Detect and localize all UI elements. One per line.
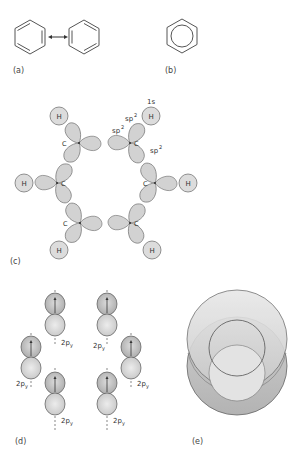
p-orbital: 2py bbox=[16, 333, 41, 390]
svg-text:H: H bbox=[149, 113, 154, 121]
panel-b-aromatic-ring: (b) bbox=[165, 19, 197, 75]
kekule-structure-2 bbox=[69, 20, 99, 54]
hydrogen-atom: H bbox=[143, 241, 161, 259]
svg-text:2: 2 bbox=[159, 144, 162, 150]
p-orbital: 2py bbox=[97, 368, 125, 430]
svg-text:H: H bbox=[57, 247, 62, 255]
annotation-sp2-ring: sp bbox=[150, 147, 159, 155]
p-orbital-label: 2py bbox=[93, 342, 105, 352]
p-orbital-label: 2py bbox=[137, 380, 149, 390]
panel-a-kekule-structures: (a) bbox=[13, 20, 99, 75]
carbon-label: C bbox=[134, 140, 139, 148]
kekule-structure-1 bbox=[15, 20, 45, 54]
svg-text:2: 2 bbox=[121, 124, 124, 130]
carbon-label: C bbox=[61, 180, 66, 188]
panel-label-c: (c) bbox=[10, 257, 21, 266]
panel-e-pi-cloud: (e) bbox=[187, 290, 287, 446]
carbon-label: C bbox=[62, 140, 67, 148]
panel-label-b: (b) bbox=[165, 66, 176, 75]
svg-text:H: H bbox=[150, 247, 155, 255]
carbon-label: C bbox=[63, 220, 68, 228]
svg-text:H: H bbox=[22, 180, 27, 188]
p-orbital-label: 2py bbox=[61, 417, 73, 427]
panel-d-p-orbitals: 2py 2py 2py 2py bbox=[15, 290, 149, 446]
delocalization-circle bbox=[171, 25, 193, 47]
panel-label-e: (e) bbox=[192, 437, 203, 446]
p-orbital-label: 2py bbox=[16, 380, 28, 390]
svg-text:H: H bbox=[57, 113, 62, 121]
resonance-arrow-icon bbox=[48, 35, 68, 39]
hydrogen-atom: H bbox=[50, 241, 68, 259]
panel-label-d: (d) bbox=[15, 437, 26, 446]
benzene-figure: (a) (b) bbox=[0, 0, 294, 461]
hydrogen-atom: H bbox=[15, 174, 33, 192]
hydrogen-atom: H bbox=[142, 107, 160, 125]
hydrogen-atom: H bbox=[50, 107, 68, 125]
p-orbital-label: 2py bbox=[61, 339, 73, 349]
svg-text:H: H bbox=[186, 180, 191, 188]
p-orbital: 2py bbox=[93, 290, 117, 352]
annotation-1s: 1s bbox=[147, 98, 155, 106]
panel-c-sigma-orbitals: H H H H H H bbox=[10, 98, 197, 266]
carbon-label: C bbox=[134, 220, 139, 228]
annotation-sp2-ch: sp bbox=[125, 115, 134, 123]
p-orbital-label: 2py bbox=[113, 417, 125, 427]
lower-ring-hole bbox=[209, 345, 265, 401]
p-orbital: 2py bbox=[121, 333, 149, 390]
hydrogen-atom: H bbox=[179, 174, 197, 192]
svg-text:2: 2 bbox=[134, 112, 137, 118]
p-orbital: 2py bbox=[45, 368, 73, 430]
annotation-sp2-cc: sp bbox=[112, 127, 121, 135]
p-orbital: 2py bbox=[45, 290, 73, 349]
carbon-label: C bbox=[143, 180, 148, 188]
panel-label-a: (a) bbox=[13, 66, 24, 75]
